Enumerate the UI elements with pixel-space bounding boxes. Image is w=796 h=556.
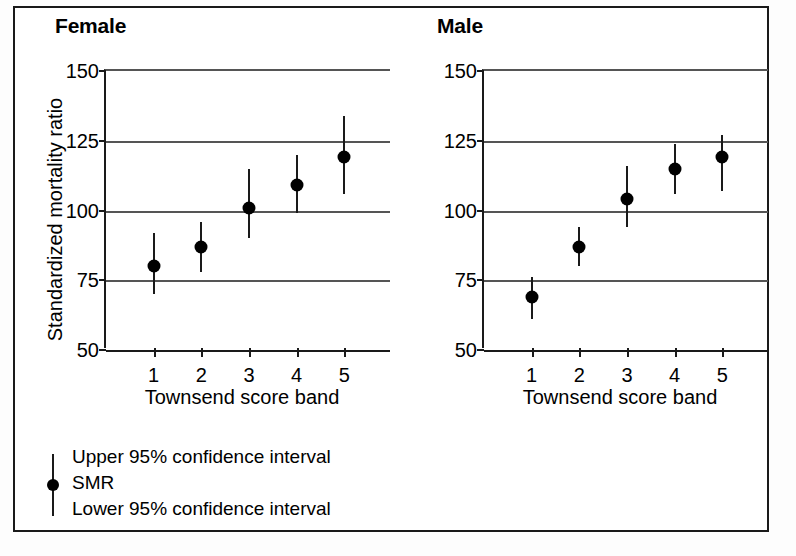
y-tick-mark (477, 210, 484, 212)
y-tick-mark (477, 279, 484, 281)
x-tick-label: 3 (243, 364, 254, 387)
x-tick-label: 5 (717, 364, 728, 387)
x-axis-line (106, 350, 390, 352)
y-tick-mark (99, 349, 106, 351)
smr-data-point (243, 201, 256, 214)
x-tick-label: 3 (621, 364, 632, 387)
y-tick-mark (477, 140, 484, 142)
gridline (106, 280, 390, 282)
y-tick-mark (99, 210, 106, 212)
smr-data-point (290, 179, 303, 192)
y-tick-label: 150 (66, 60, 99, 83)
panel-title-male: Male (437, 14, 483, 38)
figure-root: Female Male Standardized mortality ratio… (0, 0, 796, 556)
y-tick-mark (477, 70, 484, 72)
smr-data-point (668, 162, 681, 175)
y-tick-label: 125 (66, 129, 99, 152)
legend: Upper 95% confidence interval SMR Lower … (46, 446, 466, 524)
x-tick-label: 1 (148, 364, 159, 387)
y-tick-mark (99, 140, 106, 142)
x-axis-line (484, 350, 768, 352)
x-tick-label: 2 (196, 364, 207, 387)
smr-data-point (621, 193, 634, 206)
x-tick-mark (627, 348, 629, 357)
smr-data-point (147, 260, 160, 273)
smr-data-point (338, 151, 351, 164)
x-tick-mark (675, 348, 677, 357)
legend-errorbar-icon (46, 454, 60, 516)
y-tick-label: 100 (444, 199, 477, 222)
x-tick-label: 1 (526, 364, 537, 387)
x-axis-title-female: Townsend score band (92, 386, 392, 409)
legend-dot-icon (47, 479, 59, 491)
plot-area-female: 507510012515012345 (104, 69, 390, 348)
gridline (106, 141, 390, 143)
legend-label-smr: SMR (72, 472, 114, 494)
smr-data-point (716, 151, 729, 164)
y-tick-label: 50 (77, 339, 99, 362)
y-tick-mark (477, 349, 484, 351)
x-tick-mark (249, 348, 251, 357)
x-tick-label: 5 (339, 364, 350, 387)
smr-data-point (195, 240, 208, 253)
x-tick-mark (344, 348, 346, 357)
y-tick-label: 100 (66, 199, 99, 222)
y-tick-label: 125 (444, 129, 477, 152)
y-axis-title: Standardized mortality ratio (44, 70, 67, 370)
plot-area-male: 507510012515012345 (482, 69, 768, 348)
x-tick-mark (154, 348, 156, 357)
x-tick-mark (722, 348, 724, 357)
y-tick-label: 50 (455, 339, 477, 362)
smr-data-point (525, 290, 538, 303)
gridline (484, 280, 768, 282)
y-tick-mark (99, 279, 106, 281)
y-tick-label: 75 (77, 269, 99, 292)
x-tick-mark (201, 348, 203, 357)
panel-title-female: Female (55, 14, 126, 38)
x-tick-mark (297, 348, 299, 357)
x-tick-mark (532, 348, 534, 357)
gridline (484, 141, 768, 143)
x-axis-title-male: Townsend score band (470, 386, 770, 409)
x-tick-label: 2 (574, 364, 585, 387)
legend-label-upper: Upper 95% confidence interval (72, 446, 331, 468)
y-tick-label: 150 (444, 60, 477, 83)
legend-label-lower: Lower 95% confidence interval (72, 498, 331, 520)
y-tick-mark (99, 70, 106, 72)
y-tick-label: 75 (455, 269, 477, 292)
x-tick-label: 4 (669, 364, 680, 387)
smr-data-point (573, 240, 586, 253)
x-tick-mark (579, 348, 581, 357)
x-tick-label: 4 (291, 364, 302, 387)
